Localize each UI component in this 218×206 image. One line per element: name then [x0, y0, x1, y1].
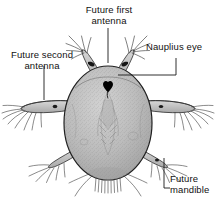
label-future-first-antenna: Future first antenna — [72, 4, 146, 26]
second-antenna-left — [2, 101, 70, 130]
second-antenna-right — [146, 101, 214, 130]
label-nauplius-eye: Nauplius eye — [146, 41, 218, 52]
label-future-mandible: Future mandible — [170, 173, 218, 195]
label-future-second-antenna: Future second antenna — [2, 49, 82, 71]
nauplius-diagram: Future first antenna Future second anten… — [0, 0, 218, 206]
